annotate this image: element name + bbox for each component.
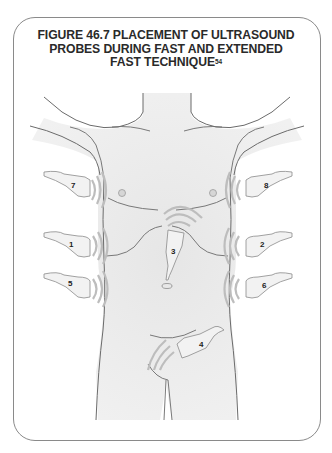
- probe-6: 6: [246, 273, 292, 298]
- probe-8-label: 8: [264, 181, 269, 190]
- right-nipple: [119, 190, 126, 197]
- probe-5: 5: [44, 273, 90, 298]
- probe-7-label: 7: [71, 181, 76, 190]
- torso-illustration: 7 8 1 5 2 6 3 4: [0, 0, 332, 453]
- probe-7: 7: [44, 171, 90, 197]
- probe-1-label: 1: [69, 240, 74, 249]
- probe-5-label: 5: [68, 279, 73, 288]
- probe-6-label: 6: [262, 281, 267, 290]
- probe-2: 2: [246, 232, 292, 257]
- probe-1: 1: [44, 232, 90, 257]
- probe-3-label: 3: [171, 247, 176, 256]
- probe-4-label: 4: [199, 340, 204, 349]
- left-nipple: [210, 190, 217, 197]
- probe-2-label: 2: [260, 240, 265, 249]
- probe-8: 8: [246, 171, 292, 197]
